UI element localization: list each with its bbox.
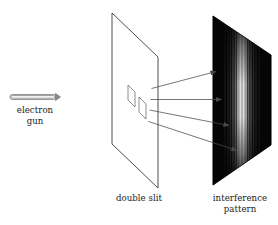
electron-gun-group: electron gun [10,93,61,125]
interference-pattern-label-line2: pattern [224,204,257,214]
double-slit-group: double slit [112,13,163,203]
electron-gun-label-line1: electron [17,105,54,115]
electron-gun-tube-inner [11,96,55,99]
double-slit-label: double slit [116,193,163,203]
electron-gun-arrowhead [56,93,61,100]
interference-fringe-layer [213,16,271,185]
electron-gun-label-line2: gun [27,116,44,126]
interference-falloff-veil [213,16,271,185]
interference-screen-group: interference pattern [213,16,271,214]
interference-pattern-label-line1: interference [213,193,267,203]
figure-canvas: electron gun double slit interference pa… [0,0,278,225]
double-slit-figure: electron gun double slit interference pa… [0,0,278,225]
beam-arrow-1 [152,72,217,89]
